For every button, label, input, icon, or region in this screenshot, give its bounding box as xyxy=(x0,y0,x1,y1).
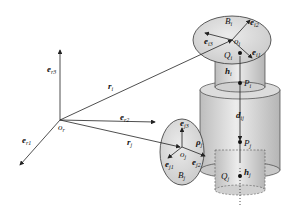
label-e-r3: er3 xyxy=(47,65,56,75)
label-e-i3: ei3 xyxy=(204,37,213,47)
label-o-i: oi xyxy=(234,37,240,47)
label-e-j3: ej3 xyxy=(180,119,189,129)
label-e-r2: er2 xyxy=(120,113,129,123)
label-e-i1: ei1 xyxy=(252,48,261,58)
label-Q-i: Qi xyxy=(224,51,232,61)
label-rho-j: ρj xyxy=(196,138,202,148)
label-r-i: ri xyxy=(108,82,113,92)
label-e-j1: ej1 xyxy=(165,160,174,170)
label-o-j: oj xyxy=(180,150,186,160)
label-o-r: or xyxy=(58,123,65,133)
label-Q-j: Qj xyxy=(221,172,229,182)
diagram-canvas: er3 er2 er1 or ri rj Bi ei3 ei2 ei1 oi Q… xyxy=(0,0,285,211)
label-P-i: Pi xyxy=(244,79,251,89)
label-P-j: Pj xyxy=(244,139,251,149)
diagram-graphics xyxy=(0,0,285,211)
label-d-ij: dij xyxy=(236,111,244,121)
label-h-i: hi xyxy=(225,67,232,77)
label-e-j2: ej2 xyxy=(192,158,201,168)
label-r-j: rj xyxy=(127,138,132,148)
label-e-i2: ei2 xyxy=(250,18,259,28)
label-e-r1: er1 xyxy=(22,136,31,146)
label-B-j: Bj xyxy=(178,171,185,181)
label-B-i: Bi xyxy=(225,17,232,27)
label-h-j: hj xyxy=(244,168,251,178)
